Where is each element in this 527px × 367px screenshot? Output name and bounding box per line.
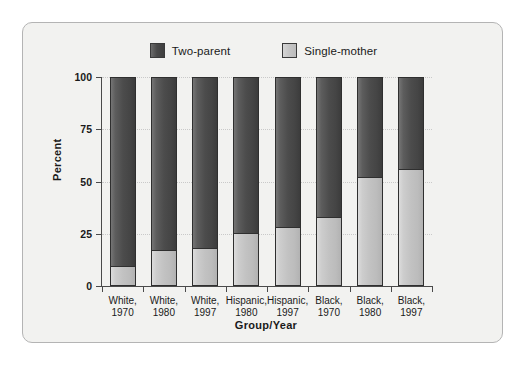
x-axis-category-line: 1997 (267, 307, 308, 319)
bar-group (316, 77, 342, 286)
stacked-bar[interactable] (192, 77, 218, 286)
x-axis-category-label: Black,1997 (391, 295, 432, 319)
x-axis-tick (102, 286, 103, 292)
bar-group (357, 77, 383, 286)
x-axis-tick (267, 286, 268, 292)
bar-segment-two-parent (234, 78, 258, 233)
bar-segment-single-mother (111, 266, 135, 285)
stacked-bar[interactable] (275, 77, 301, 286)
y-axis-tick: 50 (96, 182, 102, 183)
bar-group (275, 77, 301, 286)
bar-segment-two-parent (152, 78, 176, 250)
bar-group (398, 77, 424, 286)
y-axis-tick-label: 0 (86, 280, 92, 292)
x-axis-category-line: White, (102, 295, 143, 307)
y-axis-tick-label: 25 (80, 228, 92, 240)
x-axis-category-line: Black, (350, 295, 391, 307)
y-axis-tick-label: 100 (74, 71, 92, 83)
x-axis-tick (350, 286, 351, 292)
x-axis-category-line: 1997 (391, 307, 432, 319)
x-axis-title: Group/Year (101, 319, 431, 331)
stacked-bar[interactable] (233, 77, 259, 286)
bar-segment-two-parent (317, 78, 341, 217)
legend-entry-two-parent: Two-parent (150, 43, 231, 58)
legend-entry-single-mother: Single-mother (282, 43, 377, 58)
bar-segment-single-mother (234, 233, 258, 285)
x-axis-category-line: 1997 (185, 307, 226, 319)
x-axis-tick (226, 286, 227, 292)
chart-panel: Two-parent Single-mother Percent 0255075… (22, 22, 503, 343)
bar-group (233, 77, 259, 286)
stacked-bar[interactable] (316, 77, 342, 286)
x-axis-category-label: White,1997 (185, 295, 226, 319)
x-axis-tick (432, 286, 433, 292)
x-axis-category-label: Hispanic,1980 (226, 295, 267, 319)
bar-group (192, 77, 218, 286)
x-axis-category-line: Black, (391, 295, 432, 307)
x-axis-category-line: 1970 (102, 307, 143, 319)
x-axis-category-label: White,1970 (102, 295, 143, 319)
stacked-bar[interactable] (110, 77, 136, 286)
y-axis-tick: 100 (96, 77, 102, 78)
legend-swatch-two-parent-icon (150, 43, 165, 58)
x-axis-category-line: 1980 (226, 307, 267, 319)
bar-group (110, 77, 136, 286)
x-axis-category-label: Hispanic,1997 (267, 295, 308, 319)
x-axis-category-line: White, (143, 295, 184, 307)
chart-figure: Two-parent Single-mother Percent 0255075… (0, 0, 527, 367)
legend-label-two-parent: Two-parent (172, 45, 231, 57)
y-axis-tick: 75 (96, 129, 102, 130)
x-axis-tick (391, 286, 392, 292)
bar-segment-single-mother (317, 217, 341, 285)
bar-segment-two-parent (358, 78, 382, 177)
chart-legend: Two-parent Single-mother (23, 43, 504, 58)
stacked-bar[interactable] (151, 77, 177, 286)
stacked-bar[interactable] (357, 77, 383, 286)
x-axis-category-line: Black, (308, 295, 349, 307)
legend-label-single-mother: Single-mother (304, 45, 377, 57)
stacked-bar[interactable] (398, 77, 424, 286)
x-axis-category-line: Hispanic, (226, 295, 267, 307)
bar-segment-single-mother (152, 250, 176, 285)
x-axis-category-line: 1980 (143, 307, 184, 319)
bar-group (151, 77, 177, 286)
bar-segment-two-parent (276, 78, 300, 227)
plot-area: 0255075100White,1970White,1980White,1997… (101, 77, 432, 287)
bar-segment-single-mother (358, 177, 382, 285)
bar-segment-single-mother (193, 248, 217, 285)
legend-swatch-single-mother-icon (282, 43, 297, 58)
x-axis-category-line: 1980 (350, 307, 391, 319)
bar-segment-single-mother (276, 227, 300, 285)
y-axis-tick-label: 50 (80, 176, 92, 188)
x-axis-tick (308, 286, 309, 292)
x-axis-category-label: White,1980 (143, 295, 184, 319)
y-axis-tick: 25 (96, 234, 102, 235)
x-axis-category-label: Black,1980 (350, 295, 391, 319)
bar-segment-two-parent (193, 78, 217, 248)
bar-segment-single-mother (399, 169, 423, 285)
y-axis-tick-label: 75 (80, 123, 92, 135)
x-axis-category-line: Hispanic, (267, 295, 308, 307)
bar-segment-two-parent (399, 78, 423, 169)
x-axis-tick (185, 286, 186, 292)
y-axis-title: Percent (51, 139, 63, 181)
bar-segment-two-parent (111, 78, 135, 266)
x-axis-category-label: Black,1970 (308, 295, 349, 319)
x-axis-category-line: White, (185, 295, 226, 307)
x-axis-tick (143, 286, 144, 292)
x-axis-category-line: 1970 (308, 307, 349, 319)
